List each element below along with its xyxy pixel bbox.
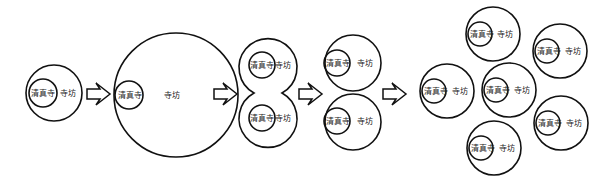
mosque-label: 清真寺 — [31, 88, 55, 98]
stage-5: 清真寺 寺坊 清真寺 寺坊 清真寺 寺坊 清真寺 寺坊 清真寺 寺坊 — [420, 7, 588, 175]
stage-4: 清真寺 寺坊 清真寺 寺坊 — [324, 35, 381, 150]
quarter-label: 寺坊 — [565, 46, 581, 56]
mosque-label: 清真寺 — [250, 113, 274, 123]
quarter-center: 清真寺 寺坊 — [482, 63, 536, 117]
mosque-label: 清真寺 — [471, 143, 495, 153]
arrow-right-icon — [299, 83, 322, 105]
quarter-label: 寺坊 — [566, 118, 582, 128]
quarter-top: 清真寺 寺坊 — [466, 7, 520, 61]
quarter-left: 清真寺 寺坊 — [420, 64, 474, 118]
quarter-label: 寺坊 — [60, 88, 76, 98]
diagram-canvas: 清真寺 寺坊 清真寺 寺坊 清真寺 寺坊 清真寺 寺坊 清真寺 寺坊 清真寺 寺… — [0, 0, 614, 186]
quarter-label: 寺坊 — [499, 143, 515, 153]
splitting-quarter-outline — [239, 39, 297, 148]
arrow-right-icon — [214, 83, 237, 105]
quarter-top-right: 清真寺 寺坊 — [533, 24, 587, 78]
quarter-label: 寺坊 — [275, 113, 291, 123]
mosque-label: 清真寺 — [486, 85, 510, 95]
stage-1: 清真寺 寺坊 — [26, 65, 82, 121]
mosque-label: 清真寺 — [118, 90, 142, 100]
mosque-label: 清真寺 — [250, 60, 274, 70]
arrow-right-icon — [87, 83, 110, 105]
stage-3: 清真寺 寺坊 清真寺 寺坊 — [239, 39, 297, 148]
mosque-label: 清真寺 — [326, 58, 350, 68]
quarter-label: 寺坊 — [275, 60, 291, 70]
quarter-bottom-right: 清真寺 寺坊 — [534, 96, 588, 150]
mosque-label: 清真寺 — [537, 46, 561, 56]
quarter-label: 寺坊 — [357, 58, 373, 68]
mosque-label: 清真寺 — [470, 29, 494, 39]
quarter-label: 寺坊 — [514, 85, 530, 95]
quarter-label: 寺坊 — [452, 86, 468, 96]
quarter-bottom: 清真寺 寺坊 — [467, 121, 521, 175]
mosque-label: 清真寺 — [326, 116, 350, 126]
quarter-label: 寺坊 — [164, 90, 180, 100]
mosque-label: 清真寺 — [424, 86, 448, 96]
quarter-label: 寺坊 — [357, 116, 373, 126]
arrow-right-icon — [383, 83, 406, 105]
quarter-label: 寺坊 — [497, 29, 513, 39]
mosque-label: 清真寺 — [538, 118, 562, 128]
